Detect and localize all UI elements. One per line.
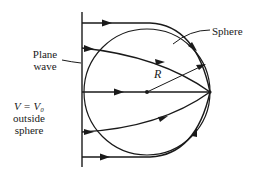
ray-axis-arrow-icon (114, 89, 124, 96)
plane-wave-leader-line (62, 60, 81, 63)
potential-label: V = V₀ outside sphere (6, 100, 52, 136)
sphere-label: Sphere (212, 25, 243, 37)
plane-wave-label-line1: Plane (28, 48, 62, 60)
ray-top-arrow-icon (102, 20, 112, 27)
ray-upper-arrow-icon (84, 45, 94, 52)
ray-upper-inner-arrow-icon (155, 59, 165, 65)
ray-bottom (82, 92, 210, 157)
ray-lower (82, 92, 210, 132)
plane-wave-label-line2: wave (28, 60, 62, 72)
sphere-center-dot (145, 90, 149, 94)
ray-upper (82, 48, 210, 92)
potential-label-line3: sphere (6, 124, 52, 136)
focal-point-dot (208, 90, 211, 93)
plane-wave-label: Plane wave (28, 48, 62, 72)
potential-label-line1: V = V₀ (6, 100, 52, 112)
radius-label: R (154, 68, 161, 80)
potential-label-line2: outside (6, 112, 52, 124)
ray-bottom-arrow-icon (100, 154, 110, 161)
ray-lower-inner-arrow-icon (158, 116, 168, 122)
ray-bottom-inner-arrow-icon (192, 127, 197, 137)
ray-lower-arrow-icon (84, 129, 94, 135)
